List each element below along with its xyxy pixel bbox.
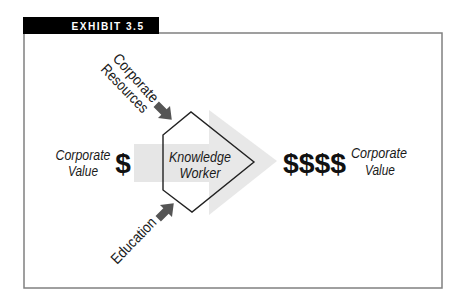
exhibit-label-tab: EXHIBIT 3.5 [23,17,159,34]
output-value-label-line2: Value [365,162,395,178]
knowledge-worker-label-line1: Knowledge [169,148,231,165]
knowledge-worker-label-line2: Worker [180,164,222,181]
input-value-label-line1: Corporate [56,146,111,163]
input-value-symbol: $ [115,148,131,179]
exhibit-label: EXHIBIT 3.5 [72,20,145,32]
corporate-resources-arrow-icon [150,98,178,126]
input-value-label-line2: Value [68,162,98,179]
output-value-label-line1: Corporate [351,145,407,161]
output-value-symbol: $$$$ [283,148,346,179]
education-label: Education [107,214,160,268]
exhibit-diagram: EXHIBIT 3.5 Knowledge Worker Corporate R… [0,0,465,302]
education-arrow-icon [152,197,180,225]
